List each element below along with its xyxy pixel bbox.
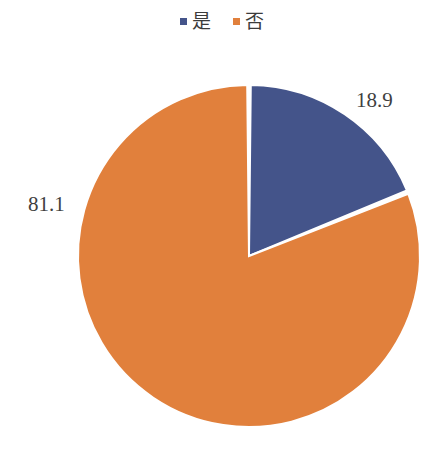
pie-slice-group: [78, 85, 420, 427]
pie-svg: [0, 0, 443, 469]
data-label-no: 81.1: [28, 194, 65, 215]
pie-plot-area: [0, 0, 443, 469]
data-label-yes: 18.9: [356, 90, 393, 111]
pie-chart-figure: 是 否 18.9 81.1: [0, 0, 443, 469]
